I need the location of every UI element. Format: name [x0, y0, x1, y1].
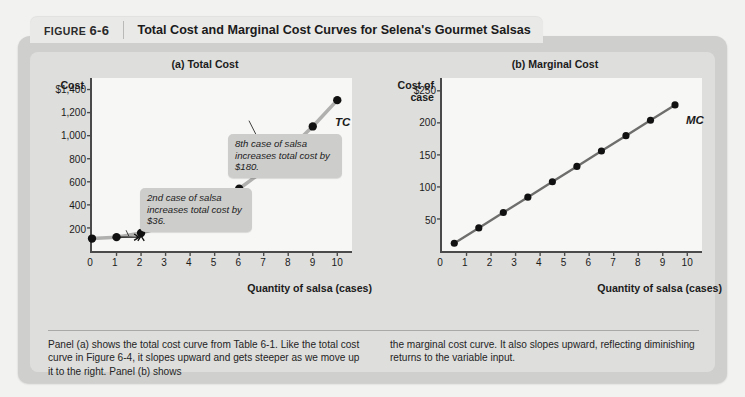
callout-2nd-case: 2nd case of salsa increases total cost b…: [140, 188, 252, 232]
chart-b-x-tick-label: 0: [430, 257, 450, 268]
chart-b-data-point: [573, 163, 580, 170]
chart-b-x-axis-label: Quantity of salsa (cases): [450, 282, 722, 294]
chart-b-x-tick-label: 3: [504, 257, 524, 268]
chart-b-x-tick-label: 1: [455, 257, 475, 268]
chart-b-y-tick-label: 200: [390, 117, 436, 128]
chart-a-x-tick-label: 4: [179, 257, 199, 268]
chart-a-y-tick-marks: [87, 90, 92, 228]
figure-header-tab: FIGURE 6-6 Total Cost and Marginal Cost …: [30, 17, 543, 43]
chart-a-y-tick-label: 400: [40, 200, 86, 211]
figure-badge-number: 6-6: [89, 23, 109, 38]
chart-b-data-point: [549, 178, 556, 185]
chart-a-y-tick-label: 800: [40, 154, 86, 165]
chart-marginal-cost: (b) Marginal Cost Cost of case $25020015…: [380, 36, 730, 326]
chart-b-svg: [442, 78, 702, 251]
charts-area: (a) Total Cost Cost $1,4001,2001,0008006…: [18, 36, 727, 326]
chart-a-x-tick-label: 2: [129, 257, 149, 268]
figure-container: FIGURE 6-6 Total Cost and Marginal Cost …: [0, 0, 745, 397]
chart-a-x-ticks: 012345678910: [90, 257, 352, 273]
chart-b-curve-label: MC: [686, 114, 704, 126]
chart-b-x-ticks: 012345678910: [440, 257, 702, 273]
chart-a-x-tick-label: 6: [228, 257, 248, 268]
chart-a-x-tick-label: 7: [253, 257, 273, 268]
chart-a-x-axis-label: Quantity of salsa (cases): [100, 282, 372, 294]
chart-b-plot-area: [440, 78, 702, 253]
chart-a-title: (a) Total Cost: [30, 58, 380, 70]
chart-a-x-tick-label: 10: [327, 257, 347, 268]
chart-b-data-point: [475, 224, 482, 231]
chart-b-y-ticks: $25020015010050: [388, 78, 436, 253]
figure-badge: FIGURE 6-6: [44, 23, 109, 38]
chart-a-data-point: [309, 122, 317, 130]
figure-title: Total Cost and Marginal Cost Curves for …: [137, 23, 530, 37]
chart-total-cost: (a) Total Cost Cost $1,4001,2001,0008006…: [30, 36, 380, 326]
callout-8th-case: 8th case of salsa increases total cost b…: [228, 134, 342, 178]
chart-a-y-tick-label: 1,200: [40, 107, 86, 118]
chart-b-y-tick-label: $250: [390, 85, 436, 96]
chart-a-data-point: [333, 96, 341, 104]
chart-b-data-point: [451, 240, 458, 247]
chart-b-x-tick-label: 6: [578, 257, 598, 268]
chart-a-y-ticks: $1,4001,2001,000800600400200: [38, 78, 86, 253]
chart-a-curve-label: TC: [335, 116, 350, 128]
chart-a-data-point: [88, 234, 96, 242]
caption-divider: [48, 330, 699, 331]
chart-b-data-point: [622, 132, 629, 139]
chart-b-y-tick-marks: [437, 91, 442, 219]
chart-a-y-tick-label: 600: [40, 177, 86, 188]
header-divider: [123, 21, 124, 39]
chart-a-x-tick-marks: [117, 251, 338, 256]
chart-b-title: (b) Marginal Cost: [380, 58, 730, 70]
chart-b-data-point: [500, 209, 507, 216]
chart-b-x-tick-label: 10: [677, 257, 697, 268]
chart-a-x-tick-label: 3: [154, 257, 174, 268]
caption-column-right: the marginal cost curve. It also slopes …: [390, 338, 700, 365]
chart-b-x-tick-label: 4: [529, 257, 549, 268]
chart-b-data-point: [598, 147, 605, 154]
chart-b-data-point: [671, 101, 678, 108]
chart-b-data-point: [647, 117, 654, 124]
chart-b-x-tick-label: 9: [652, 257, 672, 268]
chart-a-y-tick-label: 200: [40, 224, 86, 235]
chart-b-mc-curve: [454, 105, 675, 243]
chart-b-data-point: [524, 194, 531, 201]
chart-a-x-tick-label: 9: [302, 257, 322, 268]
chart-a-x-tick-label: 5: [204, 257, 224, 268]
chart-a-x-tick-label: 8: [278, 257, 298, 268]
chart-a-y-tick-label: 1,000: [40, 130, 86, 141]
figure-badge-prefix: FIGURE: [44, 25, 86, 37]
chart-b-y-tick-label: 100: [390, 182, 436, 193]
chart-a-x-tick-label: 0: [80, 257, 100, 268]
chart-b-x-tick-label: 2: [479, 257, 499, 268]
chart-b-y-tick-label: 150: [390, 150, 436, 161]
chart-a-y-tick-label: $1,400: [40, 84, 86, 95]
chart-b-x-tick-marks: [467, 251, 688, 256]
chart-b-x-tick-label: 8: [628, 257, 648, 268]
caption-column-left: Panel (a) shows the total cost curve fro…: [48, 338, 366, 378]
chart-b-x-tick-label: 5: [554, 257, 574, 268]
chart-b-y-tick-label: 50: [390, 215, 436, 226]
chart-a-x-tick-label: 1: [105, 257, 125, 268]
chart-b-x-tick-label: 7: [603, 257, 623, 268]
